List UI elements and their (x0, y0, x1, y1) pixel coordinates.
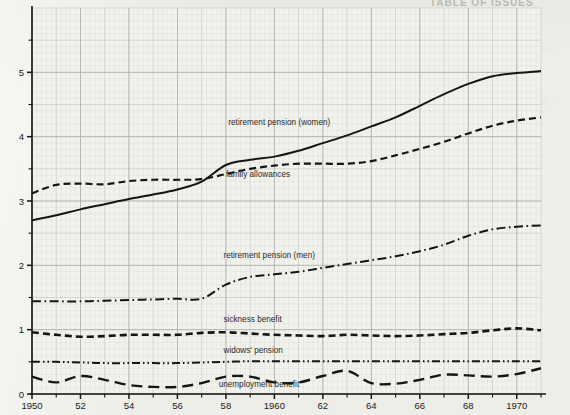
y-axis-tick-label: 3 (19, 196, 24, 207)
y-axis-tick-label: 0 (19, 389, 24, 400)
x-axis-tick-label: 66 (415, 400, 426, 411)
y-axis-tick-label: 4 (19, 131, 24, 142)
x-axis-tick-label: 52 (75, 400, 86, 411)
x-axis-tick-label: 56 (172, 400, 183, 411)
y-axis-tick-label: 5 (19, 67, 24, 78)
x-axis-tick-label: 1950 (21, 400, 42, 411)
series-label: retirement pension (women) (228, 118, 330, 127)
x-axis-tick-label: 64 (366, 400, 377, 411)
series-label: widows' pension (222, 346, 283, 355)
chart-figure: TABLE OF ISSUES 012345195052545658196062… (0, 0, 570, 415)
y-axis-tick-label: 2 (19, 260, 24, 271)
series-label: unemployment benefit (219, 380, 300, 389)
x-axis-tick-label: 1960 (264, 400, 285, 411)
chart-svg: 0123451950525456581960626466681970retire… (0, 0, 570, 415)
x-axis-tick-label: 62 (318, 400, 329, 411)
y-axis-tick-label: 1 (19, 324, 24, 335)
series-label: retirement pension (men) (223, 251, 315, 260)
x-axis-tick-label: 68 (463, 400, 474, 411)
x-axis-tick-label: 58 (221, 400, 232, 411)
series-label: family allowances (226, 170, 290, 179)
series-label: sickness benefit (223, 315, 282, 324)
x-axis-tick-label: 54 (124, 400, 135, 411)
x-axis-tick-label: 1970 (506, 400, 527, 411)
